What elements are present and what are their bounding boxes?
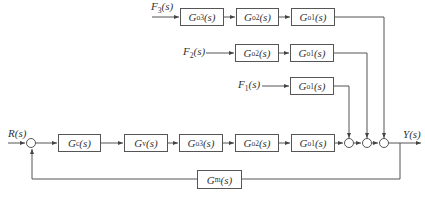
block-Go1-f3-row: Go1(s) [291, 8, 335, 26]
label-F3: F3(s) [151, 0, 173, 15]
block-Go2-main: Go2(s) [235, 134, 279, 152]
connection-lines [0, 0, 425, 198]
sum-junction-F2 [362, 138, 372, 148]
block-Gm-feedback: Gm(s) [197, 170, 242, 189]
block-Gc: Gc(s) [58, 134, 101, 152]
sum-junction-input [26, 138, 36, 148]
label-Y: Y(s) [403, 128, 421, 140]
label-F2: F2(s) [183, 45, 205, 60]
block-Go3-main: Go3(s) [179, 134, 223, 152]
label-R: R(s) [8, 127, 26, 139]
block-Go2-f3-row: Go2(s) [236, 8, 279, 26]
block-Go2-f2-row: Go2(s) [235, 44, 279, 62]
block-Go1-main: Go1(s) [291, 134, 335, 152]
sum-junction-F3 [379, 138, 389, 148]
block-Gv: Gv(s) [124, 134, 168, 152]
sum-junction-F1 [344, 138, 354, 148]
label-F1: F1(s) [238, 78, 260, 93]
block-Go1-f1-row: Go1(s) [290, 77, 334, 95]
block-Go3-f3-row: Go3(s) [180, 8, 224, 26]
block-Go1-f2-row: Go1(s) [290, 44, 334, 62]
